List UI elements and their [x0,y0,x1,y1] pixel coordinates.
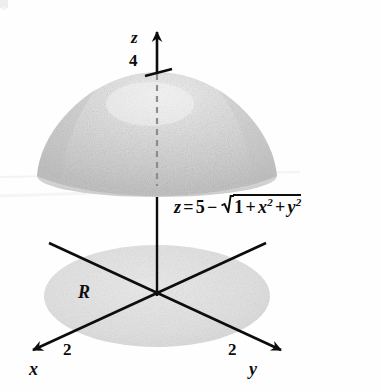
radicand-first-term: 1 [234,197,243,217]
y-axis-label: y [249,360,257,378]
radicand-y-exponent: 2 [296,196,302,208]
radicand-plus-two: + [273,197,287,217]
scan-artifact [0,0,8,10]
x-axis-label: x [29,360,38,378]
equation-radical: 1+x2+y2 [221,194,301,218]
z-axis [145,32,172,76]
radicand: 1+x2+y2 [234,194,301,218]
equation-equals: = [181,197,195,217]
radical-sign-icon [221,195,234,213]
radical-vinculum [233,194,301,196]
x-axis-tick-label: 2 [63,341,72,358]
radicand-x: x [258,197,267,217]
region-label-R: R [78,283,90,301]
calculus-figure: z 4 x 2 y 2 R z=5−1+x2+y2 [0,0,381,392]
radicand-y: y [287,197,295,217]
z-axis-label: z [131,29,138,46]
y-axis-tick-label: 2 [228,341,237,358]
radicand-plus-one: + [244,197,258,217]
equation-constant: 5 [196,197,205,217]
z-axis-tick-label: 4 [129,52,138,69]
equation-minus: − [205,197,219,217]
surface-equation: z=5−1+x2+y2 [174,194,301,218]
